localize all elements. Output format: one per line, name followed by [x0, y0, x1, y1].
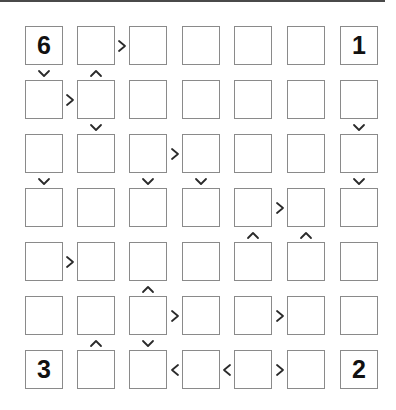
empty-cell[interactable] [77, 242, 115, 281]
empty-cell[interactable] [77, 134, 115, 173]
empty-cell[interactable] [182, 350, 220, 389]
empty-cell[interactable] [234, 188, 272, 227]
less-than-icon [220, 363, 234, 377]
greater-than-icon [168, 147, 182, 161]
empty-cell[interactable] [234, 296, 272, 335]
empty-cell[interactable] [25, 188, 63, 227]
empty-cell[interactable] [182, 26, 220, 65]
empty-cell[interactable] [77, 350, 115, 389]
given-cell: 3 [25, 350, 63, 389]
empty-cell[interactable] [182, 296, 220, 335]
greater-than-icon [63, 255, 77, 269]
greater-than-icon [63, 93, 77, 107]
empty-cell[interactable] [25, 242, 63, 281]
chevron-down-icon [141, 336, 155, 350]
empty-cell[interactable] [340, 188, 378, 227]
chevron-down-icon [141, 174, 155, 188]
empty-cell[interactable] [25, 296, 63, 335]
greater-than-icon [115, 39, 129, 53]
empty-cell[interactable] [234, 350, 272, 389]
empty-cell[interactable] [340, 134, 378, 173]
empty-cell[interactable] [287, 26, 325, 65]
given-cell: 6 [25, 26, 63, 65]
empty-cell[interactable] [182, 80, 220, 119]
given-cell: 1 [340, 26, 378, 65]
empty-cell[interactable] [287, 296, 325, 335]
empty-cell[interactable] [287, 188, 325, 227]
empty-cell[interactable] [234, 242, 272, 281]
empty-cell[interactable] [77, 80, 115, 119]
empty-cell[interactable] [77, 188, 115, 227]
chevron-up-icon [89, 336, 103, 350]
less-than-icon [168, 363, 182, 377]
chevron-down-icon [352, 120, 366, 134]
futoshiki-board: 6132 [0, 0, 396, 410]
empty-cell[interactable] [129, 296, 167, 335]
empty-cell[interactable] [129, 350, 167, 389]
greater-than-icon [168, 309, 182, 323]
empty-cell[interactable] [129, 134, 167, 173]
chevron-up-icon [299, 228, 313, 242]
empty-cell[interactable] [77, 26, 115, 65]
given-cell: 2 [340, 350, 378, 389]
empty-cell[interactable] [287, 80, 325, 119]
empty-cell[interactable] [287, 242, 325, 281]
empty-cell[interactable] [25, 80, 63, 119]
empty-cell[interactable] [129, 80, 167, 119]
chevron-down-icon [352, 174, 366, 188]
empty-cell[interactable] [182, 188, 220, 227]
empty-cell[interactable] [77, 296, 115, 335]
empty-cell[interactable] [287, 134, 325, 173]
greater-than-icon [273, 309, 287, 323]
chevron-up-icon [246, 228, 260, 242]
empty-cell[interactable] [129, 188, 167, 227]
empty-cell[interactable] [182, 134, 220, 173]
greater-than-icon [273, 201, 287, 215]
empty-cell[interactable] [234, 80, 272, 119]
empty-cell[interactable] [287, 350, 325, 389]
chevron-down-icon [37, 174, 51, 188]
chevron-down-icon [89, 120, 103, 134]
empty-cell[interactable] [129, 242, 167, 281]
empty-cell[interactable] [340, 80, 378, 119]
empty-cell[interactable] [182, 242, 220, 281]
chevron-up-icon [141, 282, 155, 296]
chevron-up-icon [89, 66, 103, 80]
empty-cell[interactable] [340, 296, 378, 335]
empty-cell[interactable] [340, 242, 378, 281]
chevron-down-icon [194, 174, 208, 188]
empty-cell[interactable] [234, 26, 272, 65]
chevron-down-icon [37, 66, 51, 80]
empty-cell[interactable] [129, 26, 167, 65]
empty-cell[interactable] [25, 134, 63, 173]
greater-than-icon [273, 363, 287, 377]
empty-cell[interactable] [234, 134, 272, 173]
